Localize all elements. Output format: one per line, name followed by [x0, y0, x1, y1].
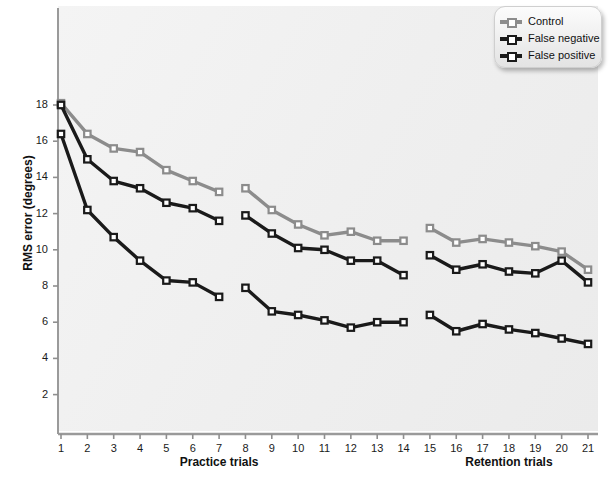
legend-item[interactable]: False positive — [495, 47, 601, 64]
data-point — [137, 185, 143, 191]
data-point — [400, 238, 406, 244]
legend-swatch-icon — [500, 33, 522, 44]
data-point — [190, 178, 196, 184]
data-point — [321, 317, 327, 323]
x-block-label: Practice trials — [149, 455, 289, 469]
data-point — [374, 257, 380, 263]
legend-label: False negative — [528, 33, 600, 44]
legend-swatch-icon — [500, 16, 522, 27]
legend-item[interactable]: Control — [495, 13, 601, 30]
y-tick-label: 18 — [22, 98, 48, 110]
y-tick-label: 10 — [22, 243, 48, 255]
x-tick-label: 16 — [445, 442, 467, 454]
y-tick-label: 4 — [22, 351, 48, 363]
data-point — [348, 257, 354, 263]
data-point — [427, 312, 433, 318]
data-point — [348, 324, 354, 330]
data-point — [558, 248, 564, 254]
data-point — [216, 218, 222, 224]
data-point — [58, 131, 64, 137]
data-point — [453, 328, 459, 334]
y-tick-label: 12 — [22, 207, 48, 219]
x-tick-label: 7 — [208, 442, 230, 454]
x-axis-ticks — [61, 434, 588, 439]
x-tick-label: 8 — [234, 442, 256, 454]
data-point — [137, 149, 143, 155]
data-point — [295, 221, 301, 227]
data-point — [453, 267, 459, 273]
y-tick-label: 8 — [22, 279, 48, 291]
data-point — [58, 102, 64, 108]
x-tick-label: 13 — [366, 442, 388, 454]
x-tick-label: 17 — [472, 442, 494, 454]
data-point — [84, 156, 90, 162]
data-point — [295, 245, 301, 251]
y-tick-label: 16 — [22, 134, 48, 146]
x-tick-label: 4 — [129, 442, 151, 454]
y-tick-label: 2 — [22, 388, 48, 400]
data-point — [190, 205, 196, 211]
data-point — [84, 131, 90, 137]
data-point — [558, 335, 564, 341]
y-tick-label: 6 — [22, 315, 48, 327]
data-point — [242, 285, 248, 291]
x-block-label: Retention trials — [439, 455, 579, 469]
data-point — [585, 341, 591, 347]
data-point — [190, 279, 196, 285]
data-point — [163, 167, 169, 173]
data-point — [111, 234, 117, 240]
x-tick-label: 1 — [50, 442, 72, 454]
data-point — [374, 319, 380, 325]
data-point — [479, 261, 485, 267]
x-tick-label: 14 — [393, 442, 415, 454]
data-point — [111, 178, 117, 184]
x-tick-label: 6 — [182, 442, 204, 454]
data-point — [400, 272, 406, 278]
legend-item[interactable]: False negative — [495, 30, 601, 47]
data-point — [242, 212, 248, 218]
data-point — [532, 330, 538, 336]
legend: Control False negative False positive — [494, 6, 602, 68]
x-tick-label: 10 — [287, 442, 309, 454]
data-point — [558, 257, 564, 263]
legend-swatch-icon — [500, 50, 522, 61]
data-point — [453, 239, 459, 245]
data-point — [585, 279, 591, 285]
data-point — [269, 207, 275, 213]
data-point — [269, 230, 275, 236]
x-tick-label: 11 — [314, 442, 336, 454]
data-point — [84, 207, 90, 213]
data-point — [506, 268, 512, 274]
x-tick-label: 3 — [103, 442, 125, 454]
legend-label: False positive — [528, 50, 595, 61]
data-point — [479, 321, 485, 327]
x-tick-label: 2 — [76, 442, 98, 454]
data-point — [532, 270, 538, 276]
data-point — [216, 189, 222, 195]
x-tick-label: 20 — [551, 442, 573, 454]
data-point — [321, 247, 327, 253]
data-point — [506, 326, 512, 332]
data-point — [427, 252, 433, 258]
chart-figure: RMS error (degrees) 24681012141618 12345… — [0, 0, 612, 477]
data-point — [242, 185, 248, 191]
x-tick-label: 12 — [340, 442, 362, 454]
x-tick-label: 9 — [261, 442, 283, 454]
y-tick-label: 14 — [22, 170, 48, 182]
x-tick-label: 5 — [155, 442, 177, 454]
data-point — [163, 200, 169, 206]
data-point — [506, 239, 512, 245]
x-tick-label: 18 — [498, 442, 520, 454]
data-point — [400, 319, 406, 325]
data-point — [585, 267, 591, 273]
data-point — [427, 225, 433, 231]
data-point — [216, 294, 222, 300]
data-point — [163, 277, 169, 283]
axis-lines — [58, 8, 598, 434]
data-point — [532, 243, 538, 249]
data-point — [295, 312, 301, 318]
data-point — [269, 308, 275, 314]
legend-label: Control — [528, 16, 563, 27]
x-tick-label: 15 — [419, 442, 441, 454]
data-point — [111, 145, 117, 151]
